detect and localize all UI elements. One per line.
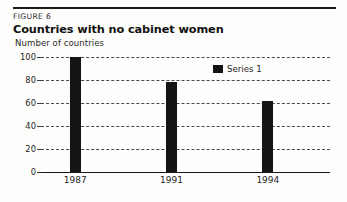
- figure-container: FIGURE 6 Countries with no cabinet women…: [0, 0, 347, 202]
- chart-legend: Series 1: [213, 65, 262, 74]
- top-rule-divider: [13, 7, 336, 9]
- y-axis-tick-label: 20: [3, 145, 36, 153]
- y-axis-tick-label: 60: [3, 99, 36, 107]
- figure-subtitle: Number of countries: [13, 38, 333, 49]
- bar: [70, 57, 81, 172]
- y-axis-tick-mark: [37, 57, 41, 58]
- y-axis-tick-mark: [37, 149, 41, 150]
- x-axis-line: [41, 172, 330, 173]
- x-axis-tick-label: 1987: [52, 175, 98, 185]
- gridline: [41, 57, 330, 58]
- x-axis-tick-label: 1991: [149, 175, 195, 185]
- y-axis-tick-label: 100: [3, 53, 36, 61]
- y-axis-tick-mark: [37, 172, 41, 173]
- bar: [262, 101, 273, 172]
- y-axis-tick-mark: [37, 126, 41, 127]
- figure-number-label: FIGURE 6: [13, 12, 333, 22]
- gridline: [41, 149, 330, 150]
- y-axis-tick-label: 80: [3, 76, 36, 84]
- figure-header: FIGURE 6 Countries with no cabinet women…: [13, 12, 333, 49]
- figure-title: Countries with no cabinet women: [13, 23, 333, 37]
- y-axis-tick-label: 0: [3, 168, 36, 176]
- y-axis-tick-mark: [37, 103, 41, 104]
- plot-area: 020406080100 198719911994 Series 1: [41, 57, 330, 172]
- legend-swatch-icon: [213, 65, 223, 73]
- bar: [166, 82, 177, 172]
- y-axis-tick-mark: [37, 80, 41, 81]
- gridline: [41, 80, 330, 81]
- gridline: [41, 103, 330, 104]
- gridline: [41, 126, 330, 127]
- y-axis-tick-label: 40: [3, 122, 36, 130]
- legend-label: Series 1: [227, 65, 262, 74]
- x-axis-tick-label: 1994: [245, 175, 291, 185]
